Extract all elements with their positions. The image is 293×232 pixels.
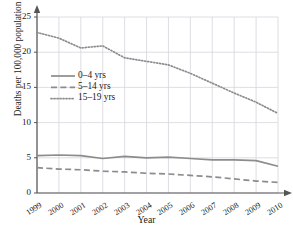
legend-label-1: 5–14 yrs	[78, 81, 111, 91]
line-chart: Deaths per 100,000 population Year 05101…	[0, 0, 293, 232]
y-tick-10: 10	[13, 117, 31, 127]
legend-label-2: 15–19 yrs	[78, 92, 115, 102]
data-series-group	[37, 32, 278, 182]
y-tick-5: 5	[13, 152, 31, 162]
y-tick-20: 20	[13, 46, 31, 56]
y-tick-25: 25	[13, 11, 31, 21]
chart-canvas	[0, 0, 293, 232]
y-tick-0: 0	[13, 187, 31, 197]
y-tick-15: 15	[13, 81, 31, 91]
legend-label-0: 0–4 yrs	[78, 70, 106, 80]
legend-line-samples	[51, 76, 75, 99]
gridlines	[37, 17, 278, 193]
axis-lines	[34, 5, 292, 196]
